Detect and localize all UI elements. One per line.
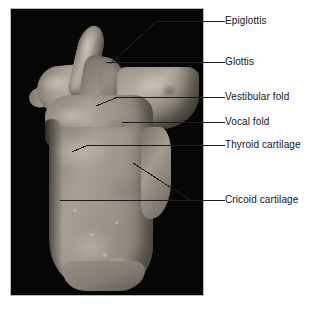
leader-vestibular-fold [96, 97, 225, 106]
label-cricoid-cartilage: Cricoid cartilage [225, 194, 298, 205]
label-thyroid-cartilage: Thyroid cartilage [225, 139, 301, 150]
leader-lines [0, 0, 313, 310]
leader-epiglottis [110, 21, 225, 64]
leader-cricoid-cartilage [133, 163, 225, 200]
label-glottis: Glottis [225, 56, 254, 67]
leader-thyroid-cartilage [72, 145, 225, 152]
anatomy-figure: Epiglottis Glottis Vestibular fold Vocal… [0, 0, 313, 310]
label-vestibular-fold: Vestibular fold [225, 91, 289, 102]
label-vocal-fold: Vocal fold [225, 116, 269, 127]
label-epiglottis: Epiglottis [225, 15, 267, 26]
